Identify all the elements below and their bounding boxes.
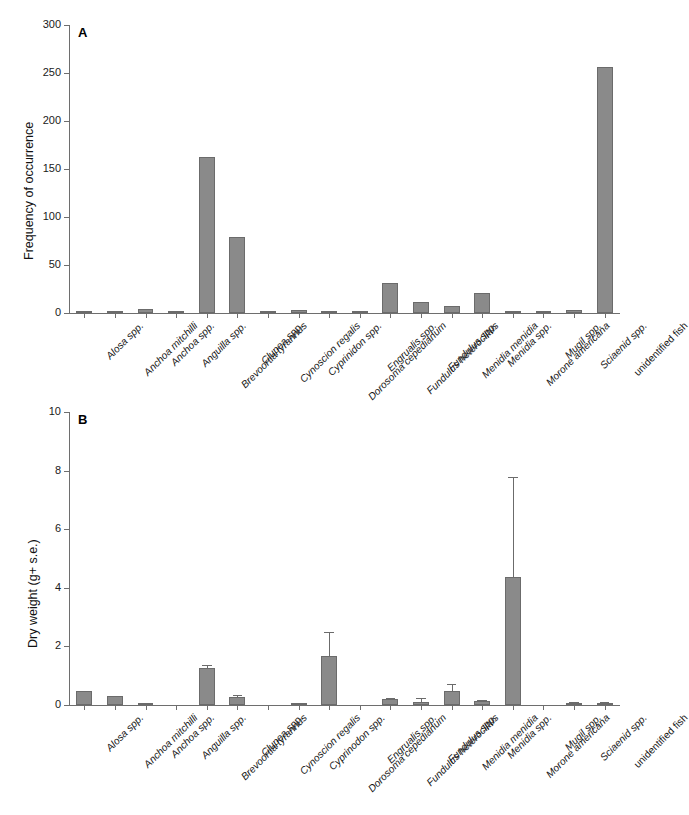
bar <box>229 697 245 705</box>
x-tick-mark <box>360 313 361 318</box>
x-tick-label: Clupea spp. <box>259 712 305 758</box>
error-bar-cap <box>202 665 212 666</box>
x-tick-mark <box>513 705 514 710</box>
bar <box>444 691 460 705</box>
x-tick-mark <box>421 705 422 710</box>
x-tick-mark <box>482 313 483 318</box>
error-bar-cap <box>233 695 243 696</box>
error-bar-cap <box>324 632 334 633</box>
x-tick-mark <box>176 313 177 318</box>
x-tick-mark <box>207 313 208 318</box>
x-tick-mark <box>237 705 238 710</box>
x-tick-mark <box>115 313 116 318</box>
x-tick-mark <box>605 705 606 710</box>
panel-a: A Frequency of occurrence 05010015020025… <box>0 0 630 400</box>
y-tick-label: 10 <box>23 406 61 416</box>
x-tick-mark <box>543 705 544 710</box>
x-tick-mark <box>390 705 391 710</box>
x-tick-mark <box>329 313 330 318</box>
bar <box>382 283 398 313</box>
error-bar <box>329 632 330 656</box>
y-tick-label: 150 <box>23 163 61 173</box>
bar <box>199 668 215 705</box>
bar <box>597 67 613 313</box>
error-bar-cap <box>600 702 610 703</box>
x-tick-mark <box>574 705 575 710</box>
x-tick-mark <box>452 313 453 318</box>
error-bar <box>513 477 514 577</box>
bar <box>229 237 245 313</box>
y-tick-label: 250 <box>23 67 61 77</box>
x-tick-mark <box>146 313 147 318</box>
bar <box>76 691 92 705</box>
x-tick-label: Alosa spp. <box>104 712 145 753</box>
y-tick-label: 200 <box>23 115 61 125</box>
x-tick-mark <box>176 705 177 710</box>
panel-a-letter: A <box>78 25 87 40</box>
y-tick-label: 2 <box>23 640 61 650</box>
y-tick-label: 6 <box>23 523 61 533</box>
x-tick-label: Morone americana <box>544 320 612 388</box>
x-tick-label: Alosa spp. <box>104 320 145 361</box>
x-tick-mark <box>268 313 269 318</box>
x-tick-label: Clupea spp. <box>259 320 305 366</box>
x-tick-mark <box>421 313 422 318</box>
y-tick-label: 50 <box>23 259 61 269</box>
x-tick-mark <box>84 313 85 318</box>
bar <box>444 306 460 313</box>
error-bar-cap <box>447 684 457 685</box>
bar <box>413 302 429 313</box>
y-tick-label: 8 <box>23 465 61 475</box>
panel-b: B Dry weight (g+ s.e.) 0246810 Alosa spp… <box>0 398 630 815</box>
error-bar-cap <box>508 477 518 478</box>
x-tick-label: Morone americana <box>544 712 612 780</box>
y-tick-label: 300 <box>23 19 61 29</box>
error-bar-cap <box>386 698 396 699</box>
x-tick-mark <box>543 313 544 318</box>
x-tick-mark <box>299 313 300 318</box>
x-tick-mark <box>360 705 361 710</box>
x-tick-mark <box>329 705 330 710</box>
bar <box>474 293 490 313</box>
panel-b-letter: B <box>78 412 87 427</box>
panel-b-y-axis <box>69 412 70 705</box>
x-tick-mark <box>115 705 116 710</box>
x-tick-mark <box>390 313 391 318</box>
bar <box>199 157 215 313</box>
x-tick-mark <box>452 705 453 710</box>
x-tick-mark <box>605 313 606 318</box>
y-tick-label: 0 <box>23 307 61 317</box>
bar <box>321 656 337 705</box>
error-bar-cap <box>569 702 579 703</box>
panel-b-y-axis-label: Dry weight (g+ s.e.) <box>26 539 40 648</box>
x-tick-label: Engrualis spp. <box>385 320 438 373</box>
y-tick-label: 4 <box>23 582 61 592</box>
error-bar-cap <box>477 700 487 701</box>
x-tick-mark <box>482 705 483 710</box>
bar <box>505 577 521 705</box>
x-tick-mark <box>84 705 85 710</box>
x-tick-label: Engrualis spp. <box>385 712 438 765</box>
error-bar-cap <box>416 698 426 699</box>
x-tick-mark <box>146 705 147 710</box>
y-tick-label: 100 <box>23 211 61 221</box>
bar <box>107 696 123 705</box>
panel-a-y-axis <box>69 25 70 314</box>
x-tick-mark <box>268 705 269 710</box>
panel-a-y-axis-label: Frequency of occurrence <box>22 122 36 260</box>
y-tick-label: 0 <box>23 699 61 709</box>
x-tick-mark <box>299 705 300 710</box>
x-tick-mark <box>207 705 208 710</box>
x-tick-mark <box>574 313 575 318</box>
x-tick-mark <box>237 313 238 318</box>
x-tick-mark <box>513 313 514 318</box>
